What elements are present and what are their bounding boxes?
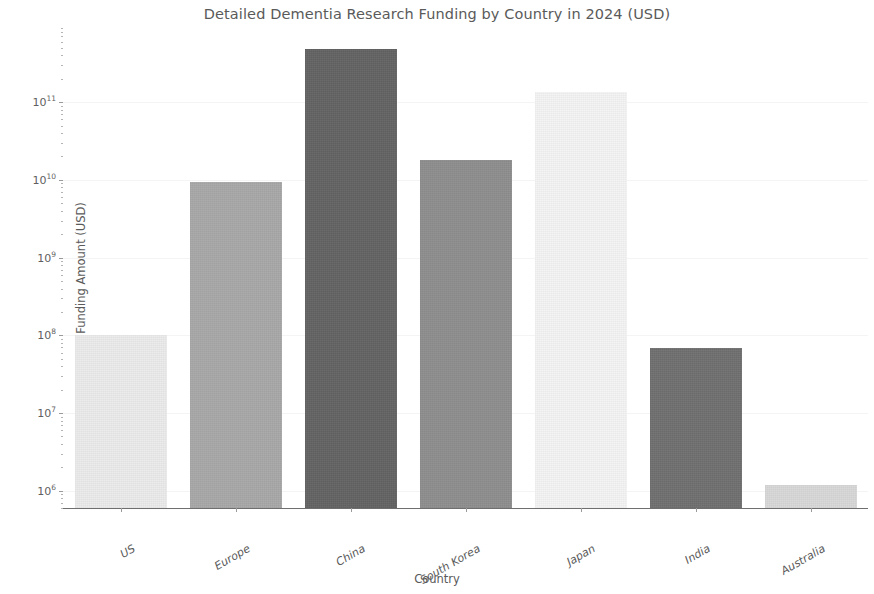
plot-area: Funding Amount (USD) 1061071081091010101… <box>63 28 868 508</box>
y-axis-minor-tick <box>61 508 63 509</box>
x-axis-tick-label: India <box>682 542 712 567</box>
x-axis-tick-label: China <box>333 542 367 569</box>
x-axis-tick <box>696 508 697 512</box>
bar-south-korea <box>420 160 512 508</box>
bar-us <box>75 335 167 508</box>
bar-europe <box>190 182 282 508</box>
y-axis-tick-label: 107 <box>37 408 56 419</box>
x-axis-tick <box>581 508 582 512</box>
x-axis-tick <box>236 508 237 512</box>
x-axis-tick <box>351 508 352 512</box>
x-axis-tick-label: Europe <box>212 542 252 573</box>
x-axis-tick <box>466 508 467 512</box>
chart-figure: Detailed Dementia Research Funding by Co… <box>0 0 874 594</box>
x-axis-tick-label: US <box>117 542 137 561</box>
bar-japan <box>535 92 627 508</box>
x-axis-tick-label: Japan <box>564 542 597 569</box>
y-axis-tick-label: 1011 <box>32 97 56 108</box>
x-axis-tick <box>811 508 812 512</box>
y-axis-tick-label: 1010 <box>32 174 56 185</box>
x-axis-tick <box>121 508 122 512</box>
y-axis-tick-label: 108 <box>37 330 56 341</box>
bar-australia <box>765 485 857 508</box>
chart-title: Detailed Dementia Research Funding by Co… <box>0 6 874 22</box>
y-axis-tick-label: 109 <box>37 252 56 263</box>
bar-group <box>63 28 868 508</box>
x-axis-title: Country <box>0 572 874 586</box>
y-axis-tick-label: 106 <box>37 485 56 496</box>
bar-china <box>305 49 397 508</box>
bar-india <box>650 348 742 508</box>
